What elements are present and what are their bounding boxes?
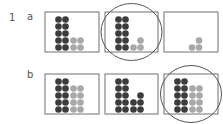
gray-dot	[70, 106, 77, 113]
dark-dot	[115, 30, 122, 37]
answer-box-b-3[interactable]	[164, 74, 218, 114]
gray-dot	[70, 99, 77, 106]
gray-dot	[189, 106, 196, 113]
dark-dot	[174, 85, 181, 92]
dark-dot	[62, 37, 69, 44]
gray-dot	[189, 44, 196, 51]
dark-dot	[62, 92, 69, 99]
dark-dot	[62, 106, 69, 113]
dark-dot	[55, 78, 62, 85]
gray-dot	[196, 99, 203, 106]
gray-dot	[77, 99, 84, 106]
dark-dot	[122, 23, 129, 30]
gray-dot	[189, 92, 196, 99]
answer-box-a-2[interactable]	[105, 12, 158, 52]
dark-dot	[115, 92, 122, 99]
dark-dot	[181, 92, 188, 99]
dark-dot	[137, 92, 144, 99]
gray-dot	[196, 85, 203, 92]
dark-dot	[181, 85, 188, 92]
dark-dot	[115, 99, 122, 106]
answer-box-b-1[interactable]	[45, 74, 99, 114]
gray-dot	[70, 44, 77, 51]
dark-dot	[55, 23, 62, 30]
dark-dot	[115, 37, 122, 44]
dark-dot	[181, 106, 188, 113]
dark-dot	[62, 99, 69, 106]
dark-dot	[122, 78, 129, 85]
gray-dot	[77, 106, 84, 113]
dark-dot	[137, 99, 144, 106]
dark-dot	[62, 23, 69, 30]
gray-dot	[196, 37, 203, 44]
dark-dot	[122, 85, 129, 92]
dark-dot	[55, 106, 62, 113]
gray-dot	[130, 44, 137, 51]
dark-dot	[55, 30, 62, 37]
dark-dot	[122, 99, 129, 106]
gray-dot	[196, 44, 203, 51]
dark-dot	[55, 44, 62, 51]
dark-dot	[55, 99, 62, 106]
gray-dot	[70, 92, 77, 99]
gray-dot	[196, 106, 203, 113]
gray-dot	[70, 85, 77, 92]
answer-box-a-1[interactable]	[45, 12, 99, 52]
dark-dot	[122, 92, 129, 99]
dark-dot	[62, 30, 69, 37]
dark-dot	[174, 99, 181, 106]
answer-box-a-3[interactable]	[164, 12, 218, 52]
gray-dot	[137, 44, 144, 51]
dark-dot	[130, 106, 137, 113]
answer-box-b-2[interactable]	[105, 74, 158, 114]
dark-dot	[174, 78, 181, 85]
dark-dot	[55, 92, 62, 99]
dark-dot	[130, 99, 137, 106]
dark-dot	[62, 44, 69, 51]
dark-dot	[181, 99, 188, 106]
gray-dot	[189, 85, 196, 92]
dark-dot	[115, 16, 122, 23]
dark-dot	[115, 85, 122, 92]
dark-dot	[181, 78, 188, 85]
dark-dot	[115, 78, 122, 85]
dark-dot	[115, 106, 122, 113]
dark-dot	[122, 30, 129, 37]
dark-dot	[55, 16, 62, 23]
dark-dot	[122, 44, 129, 51]
gray-dot	[70, 37, 77, 44]
gray-dot	[189, 99, 196, 106]
gray-dot	[77, 92, 84, 99]
gray-dot	[196, 92, 203, 99]
dark-dot	[122, 106, 129, 113]
dot-array-figure	[0, 0, 223, 124]
gray-dot	[77, 37, 84, 44]
dark-dot	[137, 106, 144, 113]
gray-dot	[77, 85, 84, 92]
dark-dot	[174, 92, 181, 99]
dark-dot	[115, 23, 122, 30]
gray-dot	[137, 37, 144, 44]
dark-dot	[174, 106, 181, 113]
dark-dot	[62, 78, 69, 85]
dark-dot	[55, 37, 62, 44]
dark-dot	[122, 16, 129, 23]
dark-dot	[62, 16, 69, 23]
dark-dot	[115, 44, 122, 51]
dark-dot	[55, 85, 62, 92]
dark-dot	[122, 37, 129, 44]
dark-dot	[62, 85, 69, 92]
gray-dot	[77, 44, 84, 51]
